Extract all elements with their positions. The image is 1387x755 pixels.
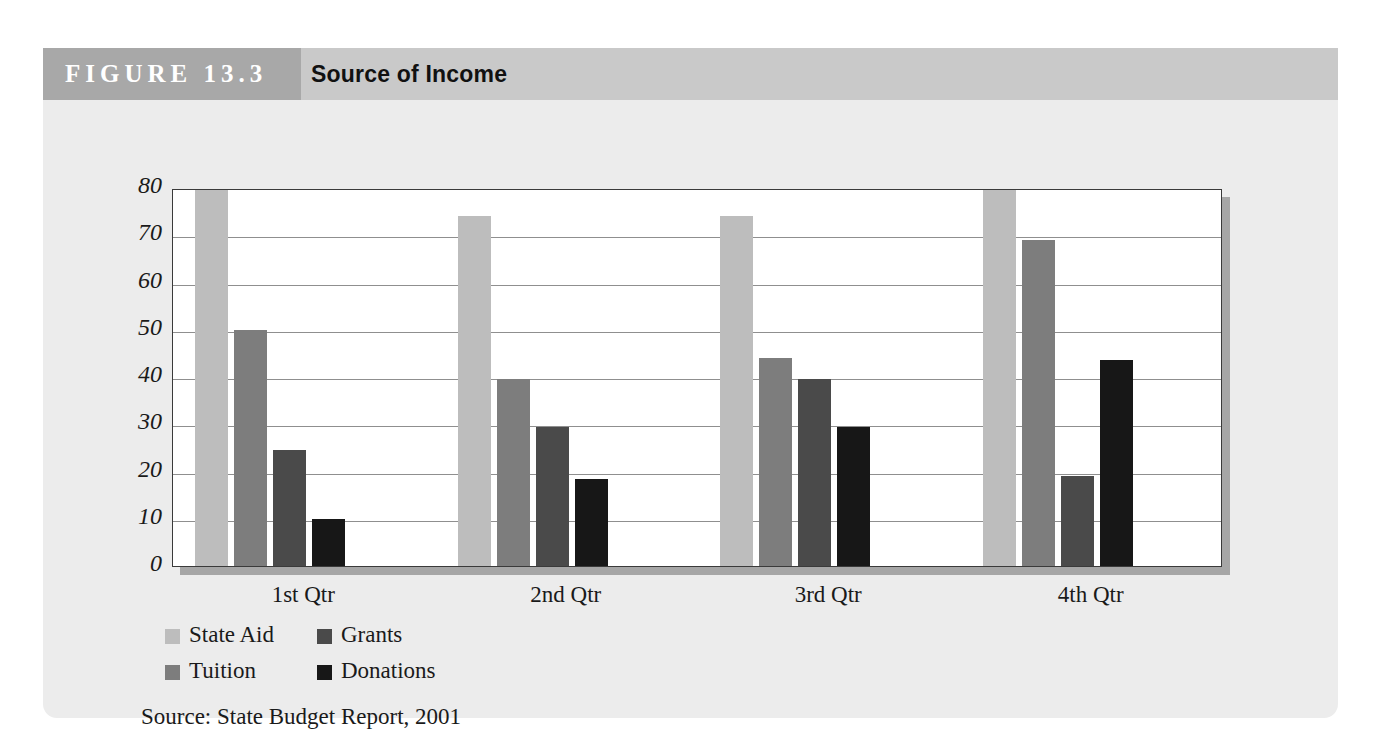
bar-grants-1: [273, 450, 306, 566]
x-tick-label-2: 2nd Qtr: [456, 582, 676, 608]
figure-number: FIGURE 13.3: [65, 60, 267, 88]
figure-header-band: FIGURE 13.3 Source of Income: [43, 48, 1338, 100]
source-note: Source: State Budget Report, 2001: [141, 704, 461, 730]
gridline: [173, 379, 1221, 380]
gridline: [173, 426, 1221, 427]
x-tick-label-3: 3rd Qtr: [718, 582, 938, 608]
bar-tuition-4: [1022, 240, 1055, 566]
bar-state-aid-2: [458, 216, 491, 566]
legend-swatch-icon: [317, 665, 332, 680]
legend-label: Tuition: [189, 658, 256, 684]
bar-donations-2: [575, 479, 608, 566]
legend-label: Grants: [341, 622, 402, 648]
figure-card: FIGURE 13.3 Source of Income 01020304050…: [43, 48, 1338, 718]
bar-grants-2: [536, 427, 569, 566]
bar-state-aid-3: [720, 216, 753, 566]
bar-state-aid-4: [983, 190, 1016, 566]
bar-donations-3: [837, 427, 870, 566]
legend-swatch-icon: [317, 629, 332, 644]
bar-donations-1: [312, 519, 345, 566]
bar-tuition-3: [759, 358, 792, 566]
gridline: [173, 474, 1221, 475]
legend-swatch-icon: [165, 629, 180, 644]
bar-donations-4: [1100, 360, 1133, 566]
y-tick-label: 70: [110, 219, 162, 246]
figure-title: Source of Income: [311, 61, 507, 88]
bar-state-aid-1: [195, 189, 228, 566]
y-tick-label: 30: [110, 408, 162, 435]
bar-tuition-1: [234, 330, 267, 566]
y-tick-label: 50: [110, 314, 162, 341]
y-tick-label: 80: [110, 172, 162, 199]
bar-tuition-2: [497, 379, 530, 566]
legend-swatch-icon: [165, 665, 180, 680]
y-tick-label: 20: [110, 456, 162, 483]
x-tick-label-1: 1st Qtr: [193, 582, 413, 608]
gridline: [173, 332, 1221, 333]
plot-area: [172, 189, 1222, 567]
y-tick-label: 60: [110, 267, 162, 294]
legend-label: Donations: [341, 658, 436, 684]
gridline: [173, 285, 1221, 286]
y-tick-label: 0: [110, 550, 162, 577]
bar-grants-3: [798, 379, 831, 566]
legend-label: State Aid: [189, 622, 274, 648]
y-tick-label: 10: [110, 503, 162, 530]
x-tick-label-4: 4th Qtr: [981, 582, 1201, 608]
bar-grants-4: [1061, 476, 1094, 566]
y-tick-label: 40: [110, 361, 162, 388]
chart-area: 01020304050607080 1st Qtr2nd Qtr3rd Qtr4…: [43, 100, 1338, 718]
gridline: [173, 237, 1221, 238]
